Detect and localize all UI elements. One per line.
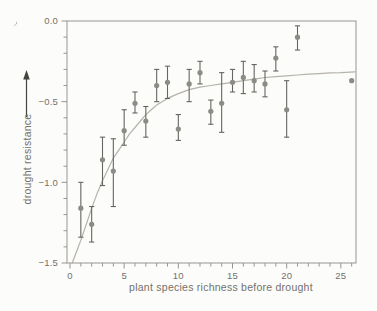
- y-tick-label: 0.0: [44, 15, 58, 26]
- y-tick-label: −1.5: [38, 257, 58, 268]
- x-tick-label: 20: [281, 270, 292, 281]
- data-point: [273, 56, 278, 61]
- fit-curve: [72, 72, 355, 263]
- data-point: [154, 83, 159, 88]
- data-point: [208, 109, 213, 114]
- x-tick-label: 10: [173, 270, 184, 281]
- data-point: [176, 126, 181, 131]
- data-point: [284, 107, 289, 112]
- data-point: [165, 80, 170, 85]
- x-tick-label: 5: [121, 270, 126, 281]
- data-point: [132, 101, 137, 106]
- figure: 05101520250.0−0.5−1.0−1.5 drought resist…: [0, 0, 377, 311]
- data-point: [111, 168, 116, 173]
- data-point: [122, 128, 127, 133]
- data-point: [89, 222, 94, 227]
- data-point: [143, 118, 148, 123]
- data-point: [230, 80, 235, 85]
- x-tick-label: 15: [227, 270, 238, 281]
- data-point: [187, 81, 192, 86]
- y-axis-title: drought resistance: [21, 79, 33, 239]
- data-point: [197, 70, 202, 75]
- plot-frame: [67, 21, 356, 263]
- y-tick-label: −1.0: [38, 177, 58, 188]
- data-point: [78, 206, 83, 211]
- x-tick-label: 0: [67, 270, 72, 281]
- data-point: [100, 157, 105, 162]
- data-point: [219, 101, 224, 106]
- data-point: [349, 78, 354, 83]
- scatter-plot: 05101520250.0−0.5−1.0−1.5: [0, 0, 377, 311]
- data-point: [241, 75, 246, 80]
- data-point: [295, 35, 300, 40]
- data-point: [262, 81, 267, 86]
- x-tick-label: 25: [335, 270, 346, 281]
- x-axis-title: plant species richness before drought: [129, 281, 313, 293]
- data-point: [252, 78, 257, 83]
- y-tick-label: −0.5: [38, 96, 58, 107]
